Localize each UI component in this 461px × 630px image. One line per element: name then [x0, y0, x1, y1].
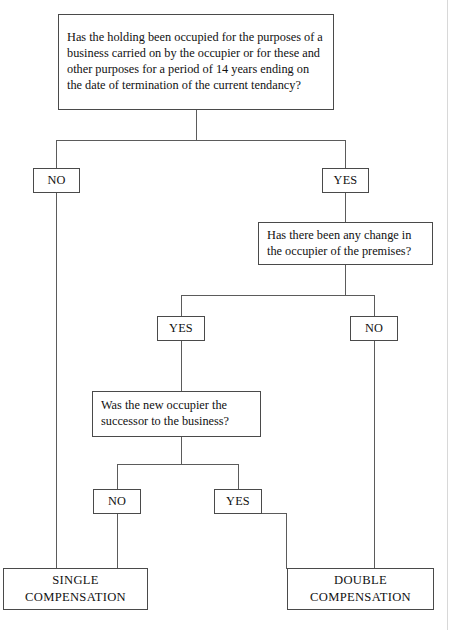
question-box-occupation-period[interactable]: Has the holding been occupied for the pu… [58, 14, 334, 110]
edge-yes1-to-q2 [345, 193, 346, 222]
edge-yes3-horizontal [262, 513, 287, 514]
edge-q2-to-no [374, 295, 375, 316]
edge-q3-split-bar [117, 464, 239, 465]
page-edge-rule [447, 0, 448, 630]
edge-yes3-to-double [286, 513, 287, 569]
decision-label: NO [34, 173, 79, 189]
edge-q2-to-yes [181, 295, 182, 316]
edge-yes2-to-q3 [181, 340, 182, 391]
decision-q3-no[interactable]: NO [93, 489, 141, 514]
decision-q3-yes[interactable]: YES [214, 489, 262, 514]
outcome-label: DOUBLECOMPENSATION [288, 572, 433, 606]
outcome-single-compensation[interactable]: SINGLECOMPENSATION [3, 568, 148, 610]
edge-no3-to-single [117, 514, 118, 568]
decision-q2-yes[interactable]: YES [157, 316, 205, 341]
decision-label: NO [94, 494, 140, 510]
edge-q1-split-bar [56, 140, 346, 141]
edge-q3-to-no [117, 464, 118, 490]
decision-q1-no[interactable]: NO [33, 168, 80, 193]
decision-label: YES [215, 494, 261, 510]
edge-no1-to-single [56, 193, 57, 568]
question-box-change-of-occupier[interactable]: Has there been any change in the occupie… [258, 222, 433, 265]
edge-q3-stem [181, 437, 182, 465]
question-text: Was the new occupier the successor to th… [101, 398, 252, 430]
decision-q2-no[interactable]: NO [350, 316, 398, 341]
decision-label: YES [323, 173, 368, 189]
question-text: Has there been any change in the occupie… [267, 228, 424, 260]
question-text: Has the holding been occupied for the pu… [67, 30, 325, 94]
edge-q1-to-yes [345, 140, 346, 168]
edge-q3-to-yes [238, 464, 239, 490]
edge-q1-to-no [56, 140, 57, 168]
edge-q1-stem [196, 110, 197, 141]
question-box-successor-to-business[interactable]: Was the new occupier the successor to th… [92, 391, 261, 437]
outcome-double-compensation[interactable]: DOUBLECOMPENSATION [287, 568, 434, 610]
edge-q2-stem [345, 265, 346, 296]
decision-q1-yes[interactable]: YES [322, 168, 369, 193]
decision-label: NO [351, 321, 397, 337]
edge-q2-split-bar [181, 295, 374, 296]
outcome-label: SINGLECOMPENSATION [4, 572, 147, 606]
edge-no2-to-double [374, 340, 375, 568]
decision-label: YES [158, 321, 204, 337]
flowchart-canvas: Has the holding been occupied for the pu… [0, 0, 461, 630]
